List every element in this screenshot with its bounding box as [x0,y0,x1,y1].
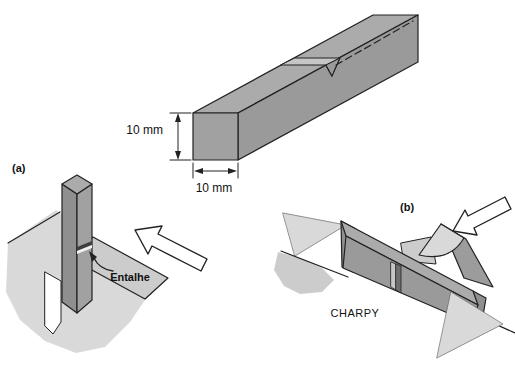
panel-a-label: (a) [12,162,26,174]
izod-vise-slot [45,272,61,334]
figure-canvas: 10 mm 10 mm (a) Entalhe [0,0,515,365]
panel-b-label: (b) [400,201,414,213]
charpy-panel: (b) CHARPY [274,197,515,358]
charpy-impact-arrow-icon [453,197,511,235]
izod-impact-arrow-icon [135,226,207,271]
height-dimension: 10 mm [126,113,191,160]
charpy-notch [391,262,396,290]
izod-panel: (a) Entalhe [6,162,207,353]
notch-label: Entalhe [110,271,150,283]
specimen-front-face [193,113,238,160]
specimen-width-label: 10 mm [196,181,233,195]
izod-specimen [62,175,92,313]
impact-test-figure: 10 mm 10 mm (a) Entalhe [0,0,515,365]
specimen-bar [193,15,418,160]
charpy-notch-shadow [396,264,401,293]
charpy-left-support-base [274,252,334,294]
dimension-arrow-icon [194,168,203,174]
charpy-test-label: CHARPY [331,307,380,319]
dimension-arrow-icon [175,113,181,122]
width-dimension: 10 mm [193,163,238,195]
dimension-arrow-icon [175,151,181,160]
specimen-height-label: 10 mm [126,123,163,137]
dimension-arrow-icon [228,168,237,174]
charpy-left-support [283,213,346,256]
